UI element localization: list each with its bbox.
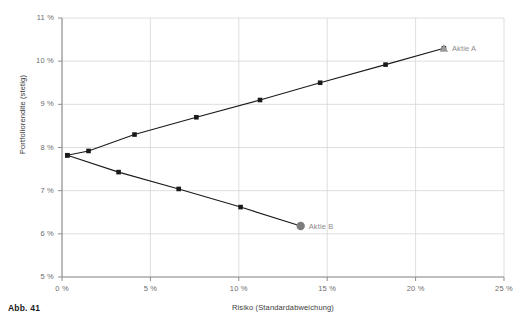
figure-container: 5 %6 %7 %8 %9 %10 %11 % 0 %5 %10 %15 %20… [0,0,523,325]
y-axis-tick-label: 5 % [20,272,54,281]
data-point-marker-square [318,80,323,85]
y-axis-title: Portfoliorendite (stetig) [18,55,27,175]
y-axis-tick-label: 6 % [20,229,54,238]
annotation-label: Aktie B [309,222,334,231]
annotation-markers-layer [296,44,448,230]
figure-caption: Abb. 41 [8,303,40,313]
x-axis-tick-label: 20 % [396,284,436,293]
annotation-label: Aktie A [452,44,476,53]
data-point-marker-square [238,205,243,210]
data-point-marker-square [258,98,263,103]
data-point-marker-square [65,153,70,158]
y-axis-tick-label: 11 % [20,13,54,22]
x-axis-title: Risiko (Standardabweichung) [62,303,504,312]
data-point-marker-square [86,149,91,154]
chart-plot-area [0,0,523,325]
x-axis-tick-label: 0 % [42,284,82,293]
x-axis-tick-label: 15 % [307,284,347,293]
axes [58,18,504,281]
data-point-marker-square [116,170,121,175]
y-axis-tick-label: 7 % [20,186,54,195]
data-series-layer [65,46,446,228]
annotation-marker-triangle [440,44,448,52]
data-point-marker-square [176,187,181,192]
data-point-marker-square [132,132,137,137]
x-axis-tick-label: 5 % [130,284,170,293]
data-point-marker-square [194,115,199,120]
gridlines [62,18,504,277]
x-axis-tick-label: 10 % [219,284,259,293]
x-axis-tick-label: 25 % [484,284,523,293]
annotation-marker-circle [296,222,304,230]
data-point-marker-square [383,62,388,67]
